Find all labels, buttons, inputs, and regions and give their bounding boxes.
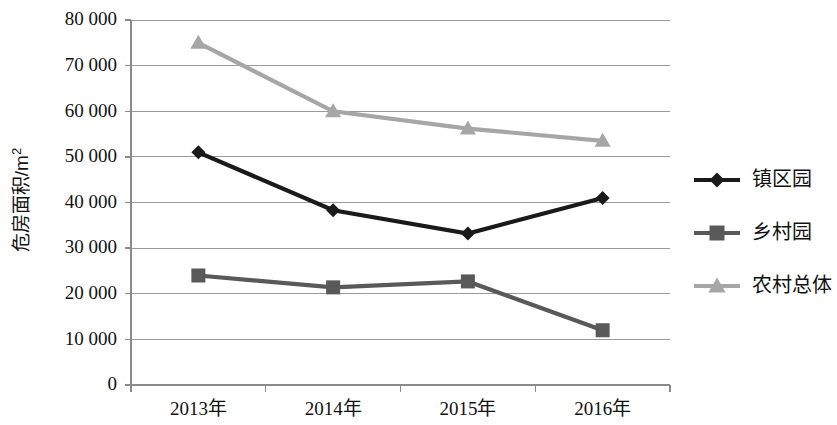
y-axis-tick-label: 70 000 (65, 54, 117, 75)
y-axis-ticks (125, 20, 131, 385)
legend-item[interactable]: 镇区园 (694, 168, 812, 190)
data-point-marker (461, 227, 475, 241)
legend-item[interactable]: 乡村园 (694, 221, 812, 243)
y-axis-tick-label: 80 000 (65, 8, 117, 29)
x-axis-tick-labels: 2013年2014年2015年2016年 (170, 398, 631, 419)
data-point-marker (596, 323, 610, 337)
x-axis-tick-label: 2015年 (439, 398, 496, 419)
x-axis-tick-label: 2014年 (305, 398, 362, 419)
y-axis-tick-label: 50 000 (65, 145, 117, 166)
chart-legend: 镇区园乡村园农村总体 (694, 168, 832, 296)
data-series (190, 35, 610, 147)
data-point-marker (190, 35, 206, 49)
line-chart: 010 00020 00030 00040 00050 00060 00070 … (0, 0, 837, 425)
data-series (191, 145, 609, 240)
y-axis-tick-label: 40 000 (65, 191, 117, 212)
chart-canvas: 010 00020 00030 00040 00050 00060 00070 … (0, 0, 837, 425)
y-axis-tick-label: 60 000 (65, 100, 117, 121)
series-line (198, 43, 602, 141)
y-axis-tick-label: 20 000 (65, 282, 117, 303)
data-point-marker (326, 203, 340, 217)
y-axis-tick-label: 0 (108, 373, 118, 394)
x-axis-tick-label: 2016年 (574, 398, 631, 419)
y-axis-title-exponent: 2 (9, 148, 24, 155)
legend-label: 乡村园 (752, 221, 812, 243)
y-axis-tick-label: 30 000 (65, 236, 117, 257)
legend-item[interactable]: 农村总体 (694, 274, 832, 296)
data-point-marker (326, 280, 340, 294)
y-axis-title: 危房面积/m2 (9, 148, 32, 252)
series-line (198, 152, 602, 233)
diamond-marker-icon (710, 173, 725, 188)
y-axis-tick-labels: 010 00020 00030 00040 00050 00060 00070 … (65, 8, 117, 394)
data-point-marker (461, 274, 475, 288)
legend-label: 农村总体 (752, 274, 832, 296)
svg-text:危房面积/m2: 危房面积/m2 (9, 148, 32, 252)
data-point-marker (191, 269, 205, 283)
series-line (198, 276, 602, 331)
y-axis-title-text: 危房面积/m (11, 155, 32, 252)
x-axis-tick-label: 2013年 (170, 398, 227, 419)
x-axis-ticks (131, 385, 670, 392)
data-series (191, 269, 609, 338)
series-plot-area (190, 35, 610, 337)
y-axis-tick-label: 10 000 (65, 328, 117, 349)
square-marker-icon (710, 226, 725, 241)
legend-label: 镇区园 (752, 168, 812, 190)
